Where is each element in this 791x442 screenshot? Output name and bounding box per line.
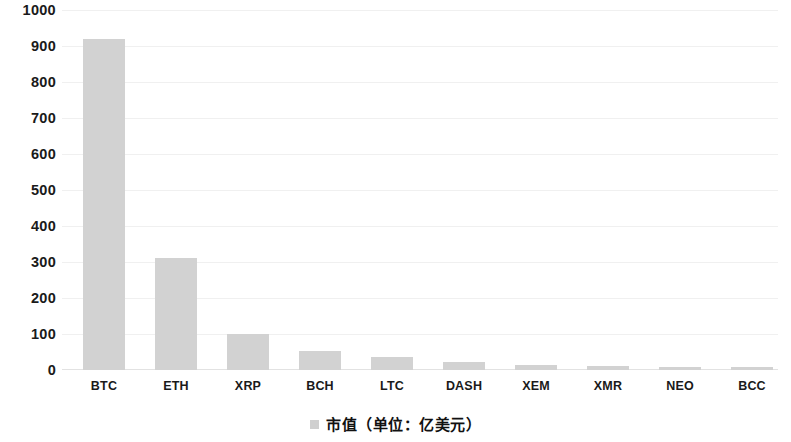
x-axis-tick-label-btc: BTC: [68, 376, 140, 396]
bar-neo[interactable]: [659, 367, 701, 370]
bar-ltc[interactable]: [371, 357, 413, 370]
y-axis: 10009008007006005004003002001000: [0, 0, 56, 380]
legend-label-market-cap: 市值（单位：亿美元）: [326, 413, 481, 434]
y-axis-tick-label: 400: [0, 219, 56, 234]
y-axis-tick-label: 500: [0, 183, 56, 198]
y-axis-tick-label: 900: [0, 39, 56, 54]
bar-xmr[interactable]: [587, 366, 629, 370]
x-axis-tick-label-xrp: XRP: [212, 376, 284, 396]
y-axis-tick-label: 100: [0, 327, 56, 342]
bar-slot: [644, 10, 716, 370]
bar-chart: 10009008007006005004003002001000 BTCETHX…: [0, 0, 791, 442]
bar-slot: [572, 10, 644, 370]
x-axis-tick-label-neo: NEO: [644, 376, 716, 396]
bar-bch[interactable]: [299, 351, 341, 370]
x-axis-tick-label-bch: BCH: [284, 376, 356, 396]
legend-square-marker: [310, 420, 319, 429]
y-axis-tick-label: 700: [0, 111, 56, 126]
x-axis-tick-label-xem: XEM: [500, 376, 572, 396]
x-axis: BTCETHXRPBCHLTCDASHXEMXMRNEOBCC: [62, 376, 778, 400]
bar-btc[interactable]: [83, 39, 125, 370]
bar-slot: [68, 10, 140, 370]
bar-slot: [428, 10, 500, 370]
bar-slot: [500, 10, 572, 370]
bar-xrp[interactable]: [227, 334, 269, 370]
x-axis-tick-label-bcc: BCC: [716, 376, 788, 396]
x-axis-tick-label-eth: ETH: [140, 376, 212, 396]
y-axis-tick-label: 0: [0, 363, 56, 378]
x-axis-tick-label-ltc: LTC: [356, 376, 428, 396]
bar-eth[interactable]: [155, 258, 197, 370]
bar-bcc[interactable]: [731, 367, 773, 370]
y-axis-tick-label: 200: [0, 291, 56, 306]
y-axis-tick-label: 1000: [0, 3, 56, 18]
bar-slot: [140, 10, 212, 370]
bars-layer: [62, 10, 778, 370]
x-axis-tick-label-xmr: XMR: [572, 376, 644, 396]
bar-dash[interactable]: [443, 362, 485, 370]
chart-legend: 市值（单位：亿美元）: [0, 408, 791, 438]
bar-xem[interactable]: [515, 365, 557, 370]
y-axis-tick-label: 800: [0, 75, 56, 90]
bar-slot: [212, 10, 284, 370]
y-axis-tick-label: 300: [0, 255, 56, 270]
y-axis-tick-label: 600: [0, 147, 56, 162]
bar-slot: [356, 10, 428, 370]
bar-slot: [716, 10, 788, 370]
x-axis-tick-label-dash: DASH: [428, 376, 500, 396]
bar-slot: [284, 10, 356, 370]
